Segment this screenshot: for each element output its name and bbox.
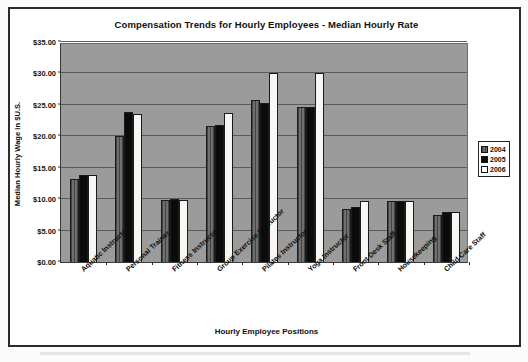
bar-2005 [442, 212, 451, 262]
y-axis-tick-label: $35.00 [33, 38, 56, 47]
y-axis-tick [58, 41, 61, 42]
bar-2005 [306, 107, 315, 262]
legend-label: 2004 [490, 146, 506, 153]
bar-group [288, 44, 333, 262]
bar-2006 [315, 73, 324, 262]
bar-group [152, 44, 197, 262]
x-axis-tick [242, 262, 243, 265]
legend-swatch-2006 [481, 166, 488, 173]
legend-swatch-2004 [481, 146, 488, 153]
x-axis-tick [152, 262, 153, 265]
legend-label: 2005 [490, 156, 506, 163]
bar-group [197, 44, 242, 262]
x-axis-tick [424, 262, 425, 265]
x-axis-title: Hourly Employee Positions [10, 327, 523, 336]
bar-2006 [269, 73, 278, 262]
y-axis-tick-label: $25.00 [33, 100, 56, 109]
bar-2005 [170, 199, 179, 262]
bar-2005 [351, 207, 360, 262]
x-axis-tick [378, 262, 379, 265]
legend-swatch-2005 [481, 156, 488, 163]
bar-2005 [396, 201, 405, 262]
legend-label: 2006 [490, 166, 506, 173]
chart-frame: Compensation Trends for Hourly Employees… [8, 7, 521, 347]
bar-group [333, 44, 378, 262]
bar-2006 [133, 114, 142, 262]
y-axis-tick-label: $10.00 [33, 195, 56, 204]
bar-2005 [79, 175, 88, 262]
y-axis-tick-label: $20.00 [33, 132, 56, 141]
y-axis-tick-label: $30.00 [33, 69, 56, 78]
bar-2006 [88, 175, 97, 262]
gridline [61, 41, 467, 42]
y-axis-tick-label: $15.00 [33, 163, 56, 172]
bar-group [61, 44, 106, 262]
x-axis-tick [288, 262, 289, 265]
bar-2006 [224, 113, 233, 262]
chart-screenshot: Compensation Trends for Hourly Employees… [0, 0, 528, 362]
bar-group [378, 44, 423, 262]
y-axis-tick-label: $0.00 [37, 258, 56, 267]
y-axis-tick-label: $5.00 [37, 226, 56, 235]
bar-group [424, 44, 469, 262]
x-axis-tick [106, 262, 107, 265]
legend-item: 2006 [481, 164, 506, 174]
x-axis-tick [469, 262, 470, 265]
legend-item: 2004 [481, 144, 506, 154]
bar-2005 [215, 125, 224, 262]
legend: 200420052006 [478, 141, 510, 177]
chart-title: Compensation Trends for Hourly Employees… [10, 19, 523, 30]
x-axis-tick [333, 262, 334, 265]
legend-item: 2005 [481, 154, 506, 164]
bar-2004 [70, 179, 79, 262]
x-axis-tick [197, 262, 198, 265]
y-axis-title: Median Hourly Wage in $U.S. [13, 102, 22, 206]
bar-2005 [124, 112, 133, 262]
bar-2005 [260, 103, 269, 262]
